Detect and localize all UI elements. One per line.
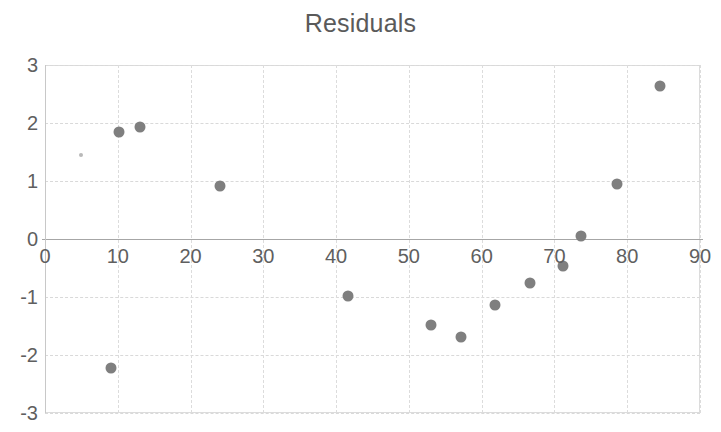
gridline-y-1: [45, 181, 700, 182]
x-axis-line: [42, 239, 703, 240]
data-point: [79, 153, 83, 157]
residuals-scatter-chart: Residuals 3210-1-2-3 0102030405060708090: [0, 0, 721, 432]
y-tick-label--3: -3: [4, 403, 38, 423]
x-tick-label-90: 90: [677, 246, 721, 266]
data-point: [524, 277, 535, 288]
y-axis-tick-labels: 3210-1-2-3: [0, 65, 38, 413]
y-tick-label-3: 3: [4, 55, 38, 75]
y-tick-label-1: 1: [4, 171, 38, 191]
x-tick-label-30: 30: [240, 246, 286, 266]
gridline-y--1: [45, 297, 700, 298]
x-tick-label-60: 60: [459, 246, 505, 266]
data-point: [134, 122, 145, 133]
y-tick-label-2: 2: [4, 113, 38, 133]
x-tick-label-10: 10: [95, 246, 141, 266]
x-axis-tick-labels: 0102030405060708090: [45, 246, 700, 272]
data-point: [214, 180, 225, 191]
x-tick-label-80: 80: [604, 246, 650, 266]
data-point: [612, 179, 623, 190]
data-point: [654, 81, 665, 92]
gridline-y--2: [45, 355, 700, 356]
data-point: [105, 363, 116, 374]
data-point: [426, 320, 437, 331]
chart-title: Residuals: [0, 8, 721, 38]
gridline-y--3: [45, 413, 700, 414]
x-tick-label-70: 70: [531, 246, 577, 266]
data-point: [343, 291, 354, 302]
y-axis-line: [45, 65, 46, 413]
data-point: [113, 127, 124, 138]
gridline-y-3: [45, 65, 700, 66]
y-tick-label--1: -1: [4, 287, 38, 307]
data-point: [489, 299, 500, 310]
x-tick-label-40: 40: [313, 246, 359, 266]
data-point: [576, 231, 587, 242]
x-tick-label-0: 0: [22, 246, 68, 266]
y-tick-label--2: -2: [4, 345, 38, 365]
x-tick-label-50: 50: [386, 246, 432, 266]
plot-area: [45, 65, 700, 413]
data-point: [456, 332, 467, 343]
x-tick-label-20: 20: [168, 246, 214, 266]
